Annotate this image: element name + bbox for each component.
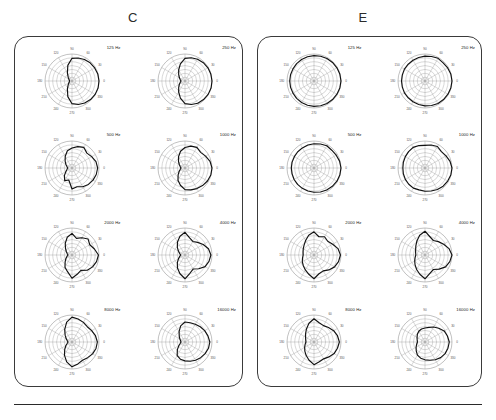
angle-tick-150: 150: [41, 324, 46, 328]
angle-tick-90: 90: [184, 308, 188, 312]
polar-plot-c-1000hz: 03060901201501802102402703003301000 Hz: [129, 124, 243, 211]
frequency-label: 2000 Hz: [104, 220, 120, 225]
panel-e: 0306090120150180210240270300330125 Hz030…: [257, 36, 482, 387]
angle-tick-150: 150: [41, 150, 46, 154]
angle-tick-0: 0: [345, 341, 347, 345]
angle-tick-90: 90: [312, 134, 316, 138]
angle-tick-330: 330: [97, 269, 102, 273]
polar-plot-e-125hz: 0306090120150180210240270300330125 Hz: [258, 37, 370, 124]
angle-tick-150: 150: [155, 150, 160, 154]
angle-tick-0: 0: [103, 253, 105, 257]
angle-tick-90: 90: [424, 134, 428, 138]
angle-tick-180: 180: [37, 166, 42, 170]
angle-tick-210: 210: [395, 95, 400, 99]
angle-tick-0: 0: [345, 166, 347, 170]
angle-tick-300: 300: [85, 281, 90, 285]
angle-tick-150: 150: [155, 237, 160, 241]
polar-axes: 0306090120150180210240270300330: [388, 131, 462, 205]
polar-plot-e-1000hz: 03060901201501802102402703003301000 Hz: [370, 124, 482, 211]
angle-tick-270: 270: [183, 111, 188, 115]
angle-tick-270: 270: [311, 286, 316, 290]
polar-axes: 0306090120150180210240270300330: [388, 305, 462, 379]
angle-tick-300: 300: [327, 368, 332, 372]
polar-axes: 0306090120150180210240270300330: [277, 218, 351, 292]
angle-tick-120: 120: [167, 138, 172, 142]
angle-tick-180: 180: [151, 166, 156, 170]
angle-tick-240: 240: [53, 368, 58, 372]
angle-tick-30: 30: [451, 150, 455, 154]
angle-tick-0: 0: [217, 341, 219, 345]
angle-tick-120: 120: [295, 313, 300, 317]
angle-tick-30: 30: [451, 237, 455, 241]
angle-tick-240: 240: [295, 281, 300, 285]
angle-tick-300: 300: [199, 281, 204, 285]
angle-tick-180: 180: [151, 341, 156, 345]
angle-tick-240: 240: [295, 194, 300, 198]
angle-tick-90: 90: [424, 221, 428, 225]
bottom-divider: [14, 404, 482, 405]
angle-tick-0: 0: [103, 341, 105, 345]
angle-tick-120: 120: [295, 51, 300, 55]
angle-tick-120: 120: [167, 225, 172, 229]
angle-tick-270: 270: [423, 373, 428, 377]
angle-tick-300: 300: [199, 368, 204, 372]
angle-tick-30: 30: [451, 324, 455, 328]
polar-axes: 0306090120150180210240270300330: [148, 44, 222, 118]
angle-tick-270: 270: [183, 286, 188, 290]
frequency-label: 125 Hz: [107, 45, 121, 50]
angle-tick-210: 210: [283, 95, 288, 99]
polar-plot-c-125hz: 0306090120150180210240270300330125 Hz: [15, 37, 129, 124]
angle-tick-120: 120: [407, 138, 412, 142]
angle-tick-300: 300: [439, 194, 444, 198]
angle-tick-240: 240: [407, 368, 412, 372]
frequency-label: 500 Hz: [348, 132, 362, 137]
plot-grid-c: 0306090120150180210240270300330125 Hz030…: [15, 37, 242, 386]
angle-tick-300: 300: [439, 368, 444, 372]
angle-tick-30: 30: [340, 63, 344, 67]
angle-tick-300: 300: [85, 194, 90, 198]
polar-plot-e-2000hz: 03060901201501802102402703003302000 Hz: [258, 212, 370, 299]
angle-tick-60: 60: [200, 138, 204, 142]
angle-tick-60: 60: [86, 138, 90, 142]
angle-tick-240: 240: [167, 281, 172, 285]
angle-tick-300: 300: [85, 368, 90, 372]
angle-tick-150: 150: [283, 237, 288, 241]
angle-tick-270: 270: [423, 198, 428, 202]
angle-tick-300: 300: [199, 194, 204, 198]
frequency-label: 8000 Hz: [104, 307, 120, 312]
angle-tick-180: 180: [391, 341, 396, 345]
angle-tick-0: 0: [457, 79, 459, 83]
angle-tick-120: 120: [407, 51, 412, 55]
angle-tick-30: 30: [98, 237, 102, 241]
angle-tick-330: 330: [339, 357, 344, 361]
angle-tick-330: 330: [451, 357, 456, 361]
panel-c: 0306090120150180210240270300330125 Hz030…: [14, 36, 243, 387]
angle-tick-0: 0: [345, 253, 347, 257]
angle-tick-0: 0: [457, 341, 459, 345]
angle-tick-210: 210: [41, 357, 46, 361]
angle-tick-60: 60: [440, 313, 444, 317]
angle-tick-60: 60: [200, 225, 204, 229]
frequency-label: 250 Hz: [461, 45, 475, 50]
polar-axes: 0306090120150180210240270300330: [35, 218, 109, 292]
angle-tick-0: 0: [217, 253, 219, 257]
angle-tick-120: 120: [295, 138, 300, 142]
polar-axes: 0306090120150180210240270300330: [35, 305, 109, 379]
angle-tick-300: 300: [199, 107, 204, 111]
angle-tick-270: 270: [69, 198, 74, 202]
angle-tick-270: 270: [311, 111, 316, 115]
plot-grid-e: 0306090120150180210240270300330125 Hz030…: [258, 37, 481, 386]
angle-tick-120: 120: [53, 138, 58, 142]
angle-tick-0: 0: [457, 166, 459, 170]
angle-tick-30: 30: [340, 237, 344, 241]
angle-tick-30: 30: [340, 150, 344, 154]
angle-tick-180: 180: [37, 253, 42, 257]
angle-tick-120: 120: [53, 313, 58, 317]
angle-tick-90: 90: [70, 308, 74, 312]
angle-tick-90: 90: [312, 308, 316, 312]
angle-tick-90: 90: [184, 221, 188, 225]
angle-tick-240: 240: [167, 368, 172, 372]
angle-tick-90: 90: [184, 134, 188, 138]
polar-plot-c-16000hz: 030609012015018021024027030033016000 Hz: [129, 299, 243, 386]
angle-tick-330: 330: [211, 182, 216, 186]
